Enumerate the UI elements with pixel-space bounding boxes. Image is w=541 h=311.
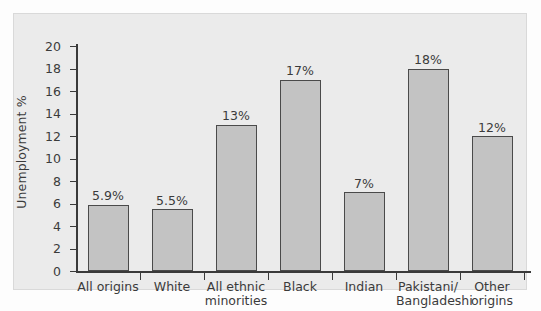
x-axis-tick [204,273,205,280]
x-axis-category-label: Pakistani/ Bangladeshi [396,280,460,308]
bar[interactable]: 18% [408,69,449,272]
bar[interactable]: 13% [216,125,257,271]
chart-figure: Unemployment % 20181614121086420 5.9%5.5… [0,0,541,311]
x-axis-line [76,271,531,273]
y-axis-tick-label: 14 [45,108,61,121]
x-axis-tick [140,273,141,280]
x-axis-tick [332,273,333,280]
y-axis-tick-label: 10 [45,153,61,166]
bar[interactable]: 12% [472,136,513,271]
x-axis-category-label: All ethnic minorities [204,280,268,308]
bar[interactable]: 17% [280,80,321,271]
y-axis-tick-label: 0 [53,265,61,278]
y-axis-tick-label: 16 [45,85,61,98]
x-axis-tick [396,273,397,280]
chart-panel: Unemployment % 20181614121086420 5.9%5.5… [13,13,527,290]
x-axis-category-label: Other origins [460,280,524,308]
y-axis-tick-label: 6 [53,198,61,211]
plot-area: 5.9%5.5%13%17%7%18%12% [76,46,524,271]
x-axis-tick [460,273,461,280]
bar-value-label: 12% [478,122,506,135]
y-axis-title: Unemployment % [14,95,29,208]
y-axis-tick-label: 2 [53,243,61,256]
y-axis-tick-label: 4 [53,220,61,233]
bar-value-label: 13% [222,110,250,123]
x-axis-tick [524,273,525,280]
y-axis-tick: 0 [70,271,76,272]
x-axis-tick [268,273,269,280]
y-axis-tick-label: 8 [53,175,61,188]
x-axis-category-label: Indian [332,280,396,294]
bar-value-label: 7% [354,178,374,191]
bar-value-label: 5.5% [156,195,188,208]
bar[interactable]: 7% [344,192,385,271]
y-axis-tick-label: 12 [45,130,61,143]
bar[interactable]: 5.9% [88,205,129,271]
bar[interactable]: 5.5% [152,209,193,271]
x-axis-category-label: White [140,280,204,294]
bar-value-label: 5.9% [92,190,124,203]
y-axis-tick-label: 18 [45,63,61,76]
x-axis-category-label: Black [268,280,332,294]
bar-value-label: 17% [286,65,314,78]
x-axis-category-label: All origins [76,280,140,294]
y-axis-tick-label: 20 [45,40,61,53]
bar-value-label: 18% [414,54,442,67]
